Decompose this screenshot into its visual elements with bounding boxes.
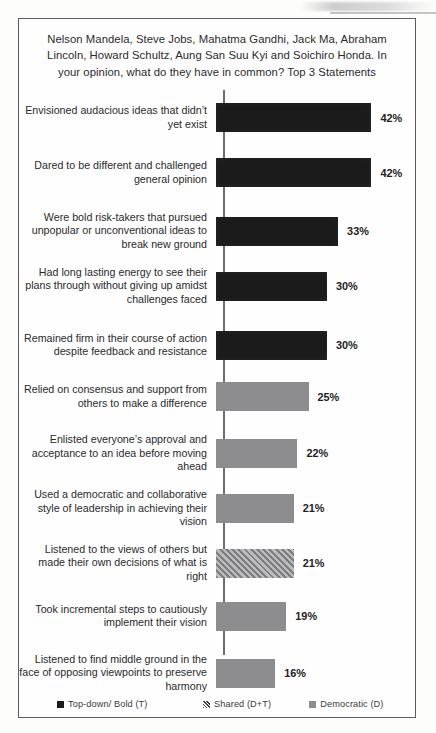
- bar: [216, 272, 327, 301]
- bar-row: Dared to be different and challenged gen…: [19, 147, 415, 198]
- bar-value-label: 30%: [336, 339, 358, 351]
- bar-row: Used a democratic and collaborative styl…: [19, 481, 415, 536]
- scan-artifact-line: [330, 12, 436, 14]
- bar-row: Remained firm in their course of action …: [19, 316, 415, 375]
- bar: [216, 439, 297, 468]
- plot-area: Envisioned audacious ideas that didn’t y…: [19, 90, 415, 655]
- bar-track: 42%: [215, 92, 415, 143]
- chart-legend: Top-down/ Bold (T)Shared (D+T)Democratic…: [19, 699, 415, 709]
- bar-row: Listened to the views of others but made…: [19, 536, 415, 591]
- bar-row: Relied on consensus and support from oth…: [19, 371, 415, 422]
- bar-row: Took incremental steps to cautiously imp…: [19, 591, 415, 642]
- legend-label: Shared (D+T): [214, 699, 271, 709]
- bar-value-label: 22%: [306, 447, 328, 459]
- bar-row: Were bold risk-takers that pursued unpop…: [19, 202, 415, 261]
- scan-artifact-top: [300, 2, 436, 11]
- legend-item: Top-down/ Bold (T): [57, 699, 203, 709]
- bar: [216, 494, 294, 523]
- legend-swatch-icon: [203, 701, 210, 708]
- bar-value-label: 21%: [303, 502, 325, 514]
- bar-category-label: Listened to the views of others but made…: [19, 543, 215, 584]
- bar-row: Listened to find middle ground in the fa…: [19, 646, 415, 701]
- bar-track: 42%: [215, 147, 415, 198]
- bar-category-label: Had long lasting energy to see their pla…: [19, 266, 215, 307]
- bar-value-label: 19%: [295, 610, 317, 622]
- bar-track: 25%: [215, 371, 415, 422]
- bar-value-label: 42%: [380, 112, 402, 124]
- bar-track: 21%: [215, 481, 415, 536]
- bar: [216, 217, 338, 246]
- bar-category-label: Used a democratic and collaborative styl…: [19, 488, 215, 529]
- bar-category-label: Enlisted everyone’s approval and accepta…: [19, 433, 215, 474]
- legend-item: Shared (D+T): [203, 699, 309, 709]
- bar-row: Enlisted everyone’s approval and accepta…: [19, 426, 415, 481]
- legend-label: Democratic (D): [320, 699, 383, 709]
- legend-item: Democratic (D): [309, 699, 389, 709]
- bar-row: Had long lasting energy to see their pla…: [19, 257, 415, 316]
- bar-track: 16%: [215, 646, 415, 701]
- bar-track: 30%: [215, 316, 415, 375]
- bar-category-label: Were bold risk-takers that pursued unpop…: [19, 211, 215, 252]
- bar: [216, 103, 371, 132]
- legend-swatch-icon: [309, 701, 316, 708]
- bar-track: 22%: [215, 426, 415, 481]
- bar-value-label: 25%: [318, 391, 340, 403]
- bar-track: 21%: [215, 536, 415, 591]
- bar-category-label: Envisioned audacious ideas that didn’t y…: [19, 104, 215, 131]
- bar-value-label: 33%: [347, 225, 369, 237]
- bar-track: 30%: [215, 257, 415, 316]
- bar-category-label: Relied on consensus and support from oth…: [19, 383, 215, 410]
- bar-value-label: 30%: [336, 280, 358, 292]
- chart-title: Nelson Mandela, Steve Jobs, Mahatma Gand…: [45, 31, 389, 80]
- bar-category-label: Took incremental steps to cautiously imp…: [19, 603, 215, 630]
- bar-value-label: 16%: [284, 667, 306, 679]
- bar-value-label: 21%: [303, 557, 325, 569]
- bar-value-label: 42%: [380, 167, 402, 179]
- bar: [216, 659, 275, 688]
- bar-category-label: Remained firm in their course of action …: [19, 332, 215, 359]
- bar: [216, 549, 294, 578]
- bar-row: Envisioned audacious ideas that didn’t y…: [19, 92, 415, 143]
- bar-track: 19%: [215, 591, 415, 642]
- bar: [216, 331, 327, 360]
- bar: [216, 158, 371, 187]
- bar: [216, 382, 309, 411]
- bar-category-label: Dared to be different and challenged gen…: [19, 159, 215, 186]
- legend-label: Top-down/ Bold (T): [68, 699, 147, 709]
- bar: [216, 602, 286, 631]
- legend-swatch-icon: [57, 701, 64, 708]
- bar-category-label: Listened to find middle ground in the fa…: [19, 653, 215, 694]
- bar-track: 33%: [215, 202, 415, 261]
- chart-frame: Nelson Mandela, Steve Jobs, Mahatma Gand…: [18, 18, 416, 718]
